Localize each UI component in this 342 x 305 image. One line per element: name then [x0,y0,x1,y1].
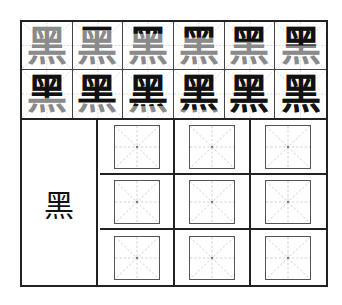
stroke-order-cell: 黑 黑 [275,70,326,118]
practice-cell[interactable] [175,175,250,230]
stroke-order-cell: 黑 黑 [123,70,174,118]
practice-cell[interactable] [251,230,326,285]
writing-box[interactable] [114,125,160,169]
writing-box[interactable] [189,125,235,169]
practice-cell[interactable] [175,230,250,285]
writing-box[interactable] [189,180,235,224]
model-character-cell: 黑 [22,120,98,285]
completed-strokes-glyph: 黑 [225,70,275,118]
stroke-order-cell: 黑 黑 [22,70,73,118]
practice-grid [100,120,326,285]
stroke-order-cell: 黑 黑 [73,70,124,118]
practice-cell[interactable] [100,230,175,285]
stroke-order-cell: 黑 黑 [73,22,124,70]
stroke-order-cell: 黑 黑 [174,22,225,70]
practice-section: 黑 [22,120,326,285]
practice-cell[interactable] [100,175,175,230]
character-practice-sheet: 黑 黑 黑 黑 黑 黑 [20,20,328,287]
writing-box[interactable] [114,180,160,224]
practice-cell[interactable] [100,120,175,175]
writing-box[interactable] [265,125,311,169]
stroke-order-cell: 黑 黑 [174,70,225,118]
practice-cell[interactable] [251,120,326,175]
stroke-order-cell: 黑 黑 [22,22,73,70]
stroke-order-cell: 黑 黑 [275,22,326,70]
completed-strokes-glyph: 黑 [275,70,326,118]
writing-box[interactable] [114,236,160,280]
remaining-strokes-glyph: 黑 [22,22,72,69]
model-character: 黑 [44,181,74,225]
stroke-order-cell: 黑 黑 [123,22,174,70]
practice-cell[interactable] [251,175,326,230]
writing-box[interactable] [265,180,311,224]
writing-box[interactable] [189,236,235,280]
stroke-order-cell: 黑 黑 [225,22,276,70]
stroke-order-cell: 黑 黑 [225,70,276,118]
writing-box[interactable] [265,236,311,280]
stroke-order-grid: 黑 黑 黑 黑 黑 黑 [22,22,326,120]
practice-cell[interactable] [175,120,250,175]
